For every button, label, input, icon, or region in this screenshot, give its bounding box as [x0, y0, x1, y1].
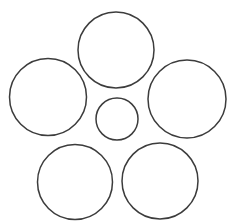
circles-diagram — [0, 0, 243, 223]
figure-canvas — [0, 0, 243, 223]
background-rect — [0, 0, 243, 223]
